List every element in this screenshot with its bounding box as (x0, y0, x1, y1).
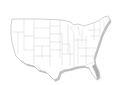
us-states-map-svg (0, 0, 119, 85)
us-map (0, 0, 119, 85)
